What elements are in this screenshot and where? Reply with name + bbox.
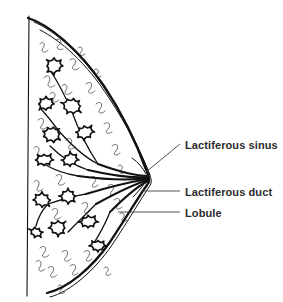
label-lactiferous-sinus: Lactiferous sinus: [185, 139, 278, 151]
label-lactiferous-duct: Lactiferous duct: [185, 186, 272, 198]
label-lobule: Lobule: [185, 207, 222, 219]
diagram-canvas: Lactiferous sinusLactiferous ductLobule: [0, 0, 283, 302]
breast-anatomy-diagram: Lactiferous sinusLactiferous ductLobule: [0, 0, 283, 302]
